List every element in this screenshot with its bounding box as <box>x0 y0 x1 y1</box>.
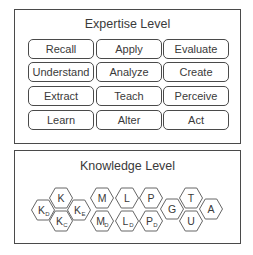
hexagon-label: K <box>56 215 63 227</box>
hexagon-k: K <box>50 188 73 208</box>
hexagon-k-e: KE <box>68 200 91 220</box>
hexagon-m: M <box>91 188 114 208</box>
hexagon-label: U <box>187 215 195 227</box>
hexagon-label: A <box>207 203 214 215</box>
hexagon-p: P <box>140 188 163 208</box>
knowledge-hexagon-cluster: KDKKCKEMMDLLDPPDGTUA <box>0 0 253 255</box>
hexagon-label: P <box>146 215 153 227</box>
hexagon-label: K <box>57 192 64 204</box>
hexagon-label: P <box>147 192 154 204</box>
hexagon-label: K <box>38 204 45 216</box>
hexagon-l: L <box>116 188 139 208</box>
hexagon-label: K <box>74 204 81 216</box>
hexagon-l-d: LD <box>116 211 139 231</box>
hexagon-subscript: E <box>81 211 85 217</box>
hexagon-m-d: MD <box>91 211 114 231</box>
hexagon-g: G <box>161 199 184 219</box>
hexagon-label: T <box>188 192 195 204</box>
hexagon-subscript: D <box>45 211 50 217</box>
hexagon-subscript: D <box>129 222 134 228</box>
hexagon-label: G <box>168 203 176 215</box>
hexagon-label: L <box>123 215 129 227</box>
hexagon-label: M <box>98 192 107 204</box>
hexagon-label: L <box>124 192 130 204</box>
hexagon-k-d: KD <box>32 200 55 220</box>
hexagon-k-c: KC <box>50 211 73 231</box>
hexagon-subscript: D <box>153 222 158 228</box>
hexagon-t: T <box>180 188 203 208</box>
hexagon-p-d: PD <box>140 211 163 231</box>
hexagon-subscript: D <box>104 222 109 228</box>
hexagon-u: U <box>180 211 203 231</box>
hexagon-a: A <box>200 199 223 219</box>
hexagon-subscript: C <box>63 222 68 228</box>
